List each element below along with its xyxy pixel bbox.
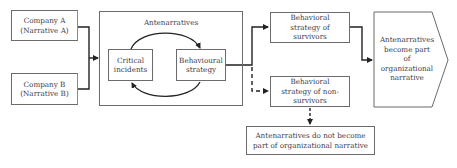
company-b-node: Company B(Narrative B): [11, 73, 78, 105]
company-b-sublabel: (Narrative B): [20, 89, 68, 98]
not-become-part-line2: part of organizational narrative: [253, 141, 368, 150]
behavioural-strategy-line2: strategy: [179, 65, 223, 74]
become-part-line2: become part: [374, 45, 440, 55]
non-survivors-line2: strategy of non-: [281, 87, 339, 96]
survivors-line3: survivors: [290, 32, 329, 41]
not-become-part-node: Antenarratives do not becomepart of orga…: [246, 126, 375, 155]
survivors-line2: strategy of: [290, 23, 329, 32]
not-become-part-line1: Antenarratives do not become: [253, 131, 368, 140]
non-survivors-line3: survivors: [281, 96, 339, 105]
behavioural-strategy-node: Behaviouralstrategy: [176, 49, 226, 81]
become-part-line4: organizational: [374, 64, 440, 74]
behavioural-strategy-line1: Behavioural: [179, 56, 223, 65]
non-survivors-line1: Behavioral: [281, 77, 339, 86]
antenarratives-title: Antenarratives: [144, 18, 198, 27]
become-part-line1: Antenarratives: [374, 35, 440, 45]
company-a-node: Company A(Narrative A): [11, 10, 78, 41]
become-part-label: Antenarratives become part of organizati…: [374, 35, 440, 83]
company-a-sublabel: (Narrative A): [20, 26, 68, 35]
become-part-line3: of: [374, 54, 440, 64]
critical-incidents-line2: incidents: [114, 65, 147, 74]
survivors-node: Behavioralstrategy ofsurvivors: [270, 12, 350, 43]
become-part-line5: narrative: [374, 73, 440, 83]
non-survivors-node: Behavioralstrategy of non-survivors: [270, 76, 350, 107]
critical-incidents-node: Criticalincidents: [108, 49, 153, 81]
company-a-label: Company A: [20, 16, 68, 25]
survivors-line1: Behavioral: [290, 13, 329, 22]
critical-incidents-line1: Critical: [114, 56, 147, 65]
company-b-label: Company B: [20, 80, 68, 89]
